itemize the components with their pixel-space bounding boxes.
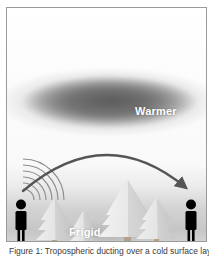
person-left [16, 200, 27, 243]
tree-group [36, 179, 177, 242]
scene-illustration [6, 7, 207, 242]
tree-1 [36, 197, 73, 242]
figure-root: Warmer Frigid Figure 1: Tropospheric duc… [0, 0, 215, 256]
person-right [186, 200, 197, 243]
warm-layer-label: Warmer [135, 105, 177, 117]
cold-layer-label: Frigid [69, 226, 101, 238]
signal-path-arrow [23, 155, 185, 191]
radio-wave-icon [23, 159, 64, 200]
illustration-frame: Warmer Frigid [6, 7, 207, 242]
figure-caption: Figure 1: Tropospheric ducting over a co… [9, 246, 209, 256]
